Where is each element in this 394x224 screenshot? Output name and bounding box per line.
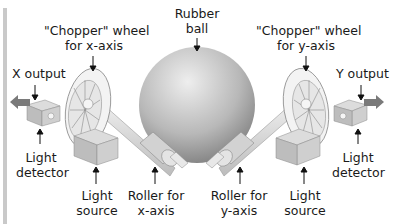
label-line: source	[72, 203, 122, 218]
label-line: x-axis	[127, 203, 185, 218]
label-line: detector	[16, 165, 66, 180]
label-line: "Chopper" wheel	[256, 23, 356, 38]
label-y-output: Y output	[336, 66, 388, 81]
label-line: Light	[72, 188, 122, 203]
label-line: "Chopper" wheel	[44, 23, 144, 38]
mouse-mechanism-diagram: Rubber ball "Chopper" wheel for x-axis "…	[0, 0, 394, 224]
label-light-detector-right: Light detector	[332, 150, 384, 180]
label-light-source-left: Light source	[72, 188, 122, 218]
label-line: for y-axis	[256, 38, 356, 53]
label-line: Light	[332, 150, 384, 165]
light-source-x	[74, 129, 118, 165]
label-roller-x: Roller for x-axis	[127, 188, 185, 218]
label-line: Roller for	[210, 188, 268, 203]
label-light-source-right: Light source	[280, 188, 330, 218]
label-x-output: X output	[12, 66, 62, 81]
light-source-y	[276, 129, 320, 165]
label-line: for x-axis	[44, 38, 144, 53]
label-chopper-x: "Chopper" wheel for x-axis	[44, 23, 144, 53]
label-line: source	[280, 203, 330, 218]
label-rubber-ball: Rubber ball	[172, 6, 222, 36]
label-line: Light	[16, 150, 66, 165]
label-light-detector-left: Light detector	[16, 150, 66, 180]
label-line: y-axis	[210, 203, 268, 218]
label-line: Rubber	[172, 6, 222, 21]
light-detector-y	[334, 100, 367, 126]
label-line: Light	[280, 188, 330, 203]
label-line: Roller for	[127, 188, 185, 203]
label-roller-y: Roller for y-axis	[210, 188, 268, 218]
label-line: ball	[172, 21, 222, 36]
label-line: detector	[332, 165, 384, 180]
label-chopper-y: "Chopper" wheel for y-axis	[256, 23, 356, 53]
light-detector-x	[27, 100, 60, 126]
